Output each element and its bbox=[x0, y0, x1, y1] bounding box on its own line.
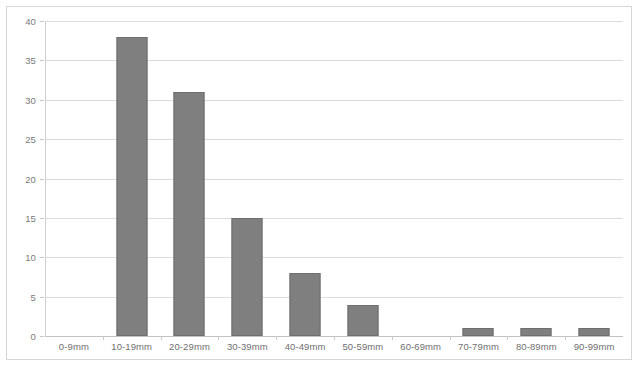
bar-slot bbox=[276, 21, 334, 336]
y-axis-tick-mark bbox=[40, 139, 44, 140]
bar[interactable] bbox=[579, 328, 610, 336]
y-axis-tick-label: 20 bbox=[25, 173, 36, 184]
y-axis-tick-label: 10 bbox=[25, 252, 36, 263]
bar-slot bbox=[507, 21, 565, 336]
bar-slot bbox=[103, 21, 161, 336]
y-axis-tick-mark bbox=[40, 218, 44, 219]
y-axis-tick-label: 5 bbox=[31, 291, 36, 302]
bar-slot bbox=[450, 21, 508, 336]
bar[interactable] bbox=[521, 328, 552, 336]
y-axis-tick-mark bbox=[40, 257, 44, 258]
x-axis-tick-label: 60-69mm bbox=[400, 341, 441, 352]
bar-slot bbox=[334, 21, 392, 336]
x-axis-tick-mark bbox=[565, 336, 566, 340]
x-axis-tick-label: 50-59mm bbox=[342, 341, 383, 352]
x-axis-tick-mark bbox=[276, 336, 277, 340]
y-axis-tick-mark bbox=[40, 336, 44, 337]
x-axis: 0-9mm10-19mm20-29mm30-39mm40-49mm50-59mm… bbox=[45, 341, 623, 361]
y-axis-tick-mark bbox=[40, 179, 44, 180]
bar-series bbox=[45, 21, 623, 336]
x-axis-tick-label: 20-29mm bbox=[169, 341, 210, 352]
x-axis-tick-mark bbox=[218, 336, 219, 340]
x-axis-tick-mark bbox=[161, 336, 162, 340]
y-axis-tick-label: 35 bbox=[25, 55, 36, 66]
y-axis: 0510152025303540 bbox=[7, 7, 45, 361]
x-axis-tick-label: 70-79mm bbox=[458, 341, 499, 352]
y-axis-tick-label: 25 bbox=[25, 134, 36, 145]
chart-frame: 0510152025303540 0-9mm10-19mm20-29mm30-3… bbox=[6, 6, 632, 360]
x-axis-tick-label: 10-19mm bbox=[111, 341, 152, 352]
bar-slot bbox=[392, 21, 450, 336]
plot-area bbox=[45, 21, 623, 336]
bar[interactable] bbox=[290, 273, 321, 336]
y-axis-tick-mark bbox=[40, 297, 44, 298]
x-axis-tick-label: 30-39mm bbox=[227, 341, 268, 352]
bar[interactable] bbox=[347, 305, 378, 337]
x-axis-tick-mark bbox=[450, 336, 451, 340]
x-axis-tick-mark bbox=[334, 336, 335, 340]
bar[interactable] bbox=[463, 328, 494, 336]
x-axis-tick-mark bbox=[392, 336, 393, 340]
y-axis-tick-label: 15 bbox=[25, 212, 36, 223]
bar-slot bbox=[565, 21, 623, 336]
y-axis-tick-label: 0 bbox=[31, 331, 36, 342]
x-axis-tick-label: 90-99mm bbox=[574, 341, 615, 352]
bar[interactable] bbox=[232, 218, 263, 336]
y-axis-tick-mark bbox=[40, 100, 44, 101]
x-axis-tick-label: 40-49mm bbox=[285, 341, 326, 352]
bar-slot bbox=[45, 21, 103, 336]
x-axis-tick-label: 0-9mm bbox=[59, 341, 89, 352]
bar[interactable] bbox=[174, 92, 205, 336]
x-axis-tick-mark bbox=[103, 336, 104, 340]
y-axis-tick-mark bbox=[40, 21, 44, 22]
x-axis-tick-mark bbox=[507, 336, 508, 340]
bar[interactable] bbox=[116, 37, 147, 336]
bar-slot bbox=[218, 21, 276, 336]
x-axis-tick-label: 80-89mm bbox=[516, 341, 557, 352]
y-axis-tick-label: 30 bbox=[25, 94, 36, 105]
y-axis-tick-mark bbox=[40, 60, 44, 61]
bar-slot bbox=[161, 21, 219, 336]
y-axis-tick-label: 40 bbox=[25, 16, 36, 27]
chart-plot-wrapper: 0510152025303540 0-9mm10-19mm20-29mm30-3… bbox=[7, 7, 631, 359]
